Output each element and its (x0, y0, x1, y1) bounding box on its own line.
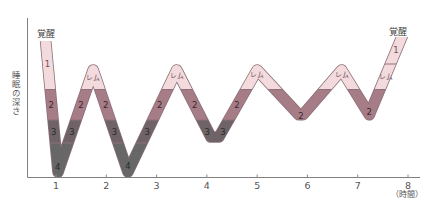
stage-label-3: 3 (205, 127, 210, 137)
stage-labels: 123432レム23432レム2332レム2レム2レム1 (45, 45, 399, 172)
hypnogram-chart: 123432レム23432レム2332レム2レム2レム1 12345678 （時… (0, 0, 433, 208)
band-outline (45, 39, 401, 172)
awake-label-end: 覚醒 (389, 26, 407, 37)
stage-label-rem: レム (379, 73, 393, 81)
stage-label-2: 2 (103, 100, 108, 110)
stage-label-2: 2 (157, 100, 162, 110)
sleep-stage-band (45, 39, 401, 172)
stage-label-4: 4 (125, 161, 130, 171)
stage-label-3: 3 (112, 127, 117, 137)
x-tick-label: 3 (154, 180, 160, 191)
x-tick-label: 4 (204, 180, 210, 191)
band-stage-2 (45, 39, 401, 172)
band-stage-3 (45, 39, 401, 172)
stage-label-3: 3 (51, 127, 56, 137)
stage-label-3: 3 (145, 127, 150, 137)
x-axis-ticks: 12345678 (53, 175, 411, 191)
y-axis-label: 睡眠の深さ (10, 71, 20, 116)
stage-label-rem: レム (250, 71, 264, 79)
stage-label-4: 4 (55, 162, 60, 172)
stage-label-1: 1 (393, 45, 398, 55)
x-tick-label: 2 (103, 180, 109, 191)
x-tick-label: 8 (405, 180, 411, 191)
stage-label-2: 2 (234, 100, 239, 110)
stage-boundary-lines (45, 39, 401, 172)
x-axis-unit-label: （時間） (391, 190, 423, 199)
band-stage-1-rem (45, 39, 401, 172)
band-stage-4 (45, 39, 401, 172)
stage-label-rem: レム (86, 74, 100, 82)
stage-label-2: 2 (298, 111, 303, 121)
stage-label-2: 2 (367, 107, 372, 117)
x-tick-label: 6 (304, 180, 310, 191)
stage-label-1: 1 (45, 59, 50, 69)
stage-label-3: 3 (69, 127, 74, 137)
stage-label-rem: レム (335, 71, 349, 79)
x-tick-label: 7 (355, 180, 361, 191)
stage-label-rem: レム (170, 72, 184, 80)
stage-label-2: 2 (49, 100, 54, 110)
stage-label-3: 3 (220, 127, 225, 137)
stage-label-2: 2 (192, 100, 197, 110)
x-tick-label: 1 (53, 180, 59, 191)
x-tick-label: 5 (254, 180, 260, 191)
stage-label-2: 2 (78, 100, 83, 110)
awake-label-start: 覚醒 (37, 28, 55, 39)
